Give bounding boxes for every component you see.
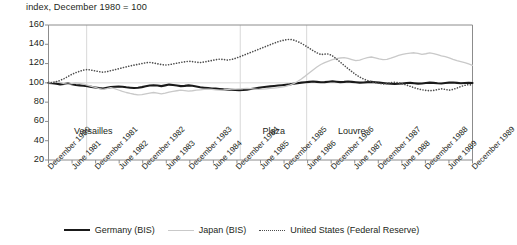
legend-swatch-germany-icon: [64, 229, 90, 231]
legend-label-japan: Japan (BIS): [199, 225, 247, 235]
xtick-marks-group: [49, 160, 473, 164]
gridlines-group: [49, 25, 473, 160]
legend-swatch-japan-icon: [168, 230, 194, 231]
y-axis-label-20: 20: [18, 154, 44, 164]
chart-legend: Germany (BIS) Japan (BIS) United States …: [0, 225, 483, 235]
legend-item-united-states[interactable]: United States (Federal Reserve): [259, 225, 419, 235]
y-axis-label-160: 160: [18, 19, 44, 29]
axes-group: [45, 25, 473, 160]
annotation-louvre: Louvre: [338, 126, 366, 136]
annotation-plaza: Plaza: [263, 126, 286, 136]
legend-label-united-states: United States (Federal Reserve): [290, 225, 419, 235]
legend-label-germany: Germany (BIS): [95, 225, 155, 235]
legend-swatch-united-states-icon: [259, 230, 285, 231]
annotation-versailles: Versailles: [74, 126, 113, 136]
series-group: [49, 39, 473, 95]
y-axis-label-140: 140: [18, 38, 44, 48]
y-axis-label-40: 40: [18, 135, 44, 145]
legend-item-germany[interactable]: Germany (BIS): [64, 225, 155, 235]
legend-item-japan[interactable]: Japan (BIS): [168, 225, 247, 235]
y-axis-label-120: 120: [18, 57, 44, 67]
y-axis-label-60: 60: [18, 115, 44, 125]
y-axis-label-100: 100: [18, 77, 44, 87]
y-axis-label-80: 80: [18, 96, 44, 106]
